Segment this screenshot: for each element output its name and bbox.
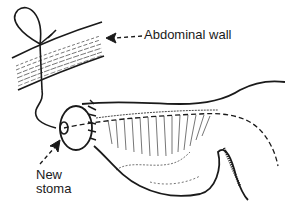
bowel-loop [60,81,285,200]
abdominal-wall-label: Abdominal wall [144,28,231,42]
new-stoma-arrow [40,140,60,164]
new-stoma-label-line2: stoma [36,182,71,196]
new-stoma-label-line1: New [36,168,71,182]
suture-thread [15,8,56,128]
abdominal-wall-section [12,22,104,90]
new-stoma-label: New stoma [36,168,71,196]
abdominal-wall-arrow [106,33,142,43]
